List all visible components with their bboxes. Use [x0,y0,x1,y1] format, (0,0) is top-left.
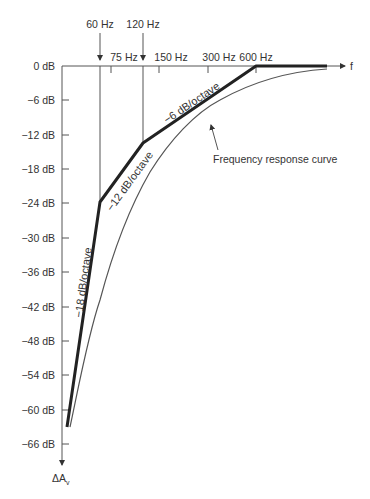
svg-text:75 Hz: 75 Hz [110,51,137,63]
svg-text:600 Hz: 600 Hz [239,51,272,63]
frequency-response-curve [70,69,327,427]
asymptotic-line [67,66,327,427]
y-axis-label: ΔAv [52,472,70,486]
curve-label: Frequency response curve [213,153,337,165]
x-tick-labels: 75 Hz 150 Hz 300 Hz 600 Hz [110,51,272,63]
svg-text:150 Hz: 150 Hz [154,51,187,63]
svg-text:−54 dB: −54 dB [21,369,55,381]
svg-text:−6 dB: −6 dB [27,94,55,106]
svg-text:−36 dB: −36 dB [21,266,55,278]
x-axis-label: f [350,60,353,72]
svg-text:−48 dB: −48 dB [21,335,55,347]
svg-text:−66 dB: −66 dB [21,438,55,450]
svg-text:−24 dB: −24 dB [21,197,55,209]
svg-text:−30 dB: −30 dB [21,232,55,244]
svg-text:60 Hz: 60 Hz [86,18,113,30]
svg-text:−18 dB: −18 dB [21,163,55,175]
y-ticks [62,100,69,444]
svg-text:−12 dB: −12 dB [21,129,55,141]
svg-text:120 Hz: 120 Hz [126,18,159,30]
svg-text:−42 dB: −42 dB [21,301,55,313]
y-tick-labels: 0 dB −6 dB −12 dB −18 dB −24 dB −30 dB −… [21,60,55,450]
slope-label-18: −18 dB/octave [72,247,94,319]
svg-text:300 Hz: 300 Hz [202,51,235,63]
slope-label-12: −12 dB/octave [104,149,155,213]
svg-text:0 dB: 0 dB [33,60,55,72]
slope-label-6: −6 dB/octave [161,80,221,126]
x-ticks [111,66,256,73]
svg-text:−60 dB: −60 dB [21,404,55,416]
curve-label-pointer [211,125,218,150]
frequency-response-chart: f ΔAv 0 dB −6 dB −12 dB −18 dB −24 dB −3… [0,0,370,499]
